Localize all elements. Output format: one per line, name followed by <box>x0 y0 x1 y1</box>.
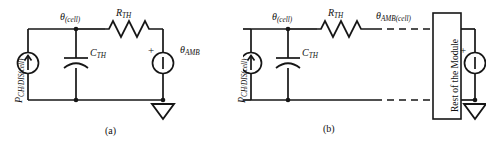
node-dot-ground-b <box>473 98 478 103</box>
figure-container: PCH/DIS(cell) θ(cell) RTH CTH + θAMB (a) <box>0 0 486 150</box>
label-capacitor-cth-b: CTH <box>302 48 318 58</box>
label-power-source-b: PCH/DIS(cell) <box>237 59 247 103</box>
label-node-theta-cell-b: θ(cell) <box>272 12 292 22</box>
node-dot-bottom-cap-b <box>286 98 291 103</box>
label-polarity-plus-b: + <box>460 45 466 56</box>
label-polarity-plus-a: + <box>148 45 154 56</box>
node-dot-theta-cell-b <box>286 27 291 32</box>
label-node-theta-amb-cell-b: θAMB(cell) <box>376 11 411 21</box>
ground-symbol-b <box>464 104 486 119</box>
label-resistor-rth-a: RTH <box>116 8 131 18</box>
caption-panel-a: (a) <box>105 126 116 136</box>
panel-a-circuit-svg <box>0 0 243 150</box>
caption-panel-b: (b) <box>323 124 335 134</box>
label-ambient-source-a: θAMB <box>180 45 200 55</box>
ground-symbol <box>152 104 174 119</box>
node-dot-theta-cell <box>74 27 79 32</box>
resistor-rth-symbol <box>105 21 163 37</box>
capacitor-plate-bottom-curved <box>64 63 88 68</box>
label-node-theta-cell-a: θ(cell) <box>60 12 80 22</box>
panel-b: PCH/DIS(cell) θ(cell) RTH CTH θAMB(cell)… <box>243 0 486 150</box>
node-dot-ground <box>161 98 166 103</box>
resistor-rth-symbol-b <box>317 21 375 37</box>
panel-a: PCH/DIS(cell) θ(cell) RTH CTH + θAMB (a) <box>0 0 243 150</box>
label-capacitor-cth-a: CTH <box>90 48 106 58</box>
node-dot-bottom-cap <box>74 98 79 103</box>
capacitor-plate-bottom-curved-b <box>276 63 300 68</box>
label-resistor-rth-b: RTH <box>328 8 343 18</box>
label-power-source-a: PCH/DIS(cell) <box>14 59 24 103</box>
